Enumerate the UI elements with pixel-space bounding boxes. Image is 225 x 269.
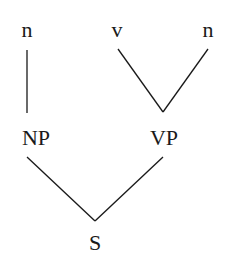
node-n-left: n [22,17,33,42]
edge-vp-s [95,157,163,221]
edge-n-vp [163,49,208,112]
node-np: NP [22,125,50,150]
node-n-right: n [203,17,214,42]
node-v: v [112,17,123,42]
node-s: S [89,230,101,255]
node-vp: VP [150,125,178,150]
edge-v-vp [118,49,163,112]
syntax-tree-diagram: n v n NP VP S [0,0,225,269]
edge-np-s [27,157,95,221]
